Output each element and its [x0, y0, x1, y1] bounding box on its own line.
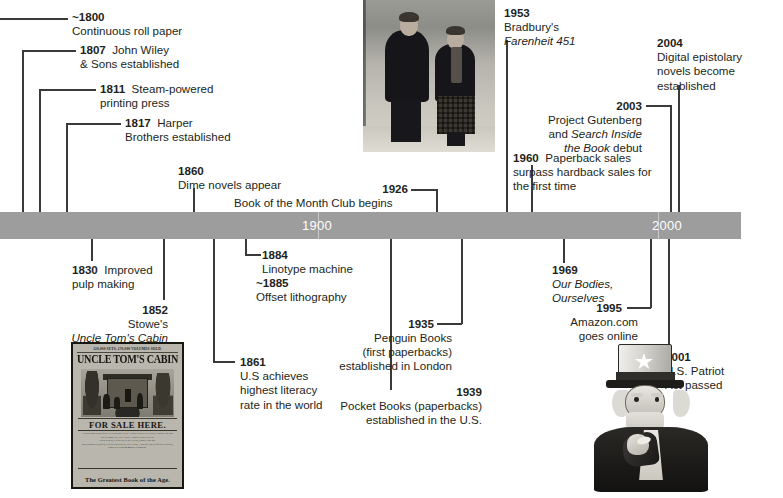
- connector-1811-horizontal: [39, 89, 96, 91]
- event-1939-line1: Pocket Books (paperbacks): [300, 399, 482, 413]
- timeline-infographic: 1900 2000 ~1800 Con: [0, 0, 783, 498]
- connector-1884-horizontal: [245, 254, 261, 256]
- event-2003: 2003: [520, 99, 642, 113]
- event-2003-line2-italic: Search Inside: [571, 127, 642, 140]
- event-1935: 1935: [330, 317, 434, 331]
- event-2004-line2: novels become: [657, 64, 742, 78]
- event-1939: 1939 Pocket Books (paperbacks) establish…: [300, 385, 482, 428]
- event-1830-year: 1830: [72, 263, 98, 276]
- event-2003-line3-italic: the Book: [564, 141, 610, 154]
- poster-figure-2: [114, 397, 120, 409]
- event-1884-year: 1884: [262, 248, 288, 261]
- event-1807-year: 1807: [80, 43, 106, 56]
- photo-figure-right-hair: [446, 26, 465, 35]
- event-1800: ~1800 Continuous roll paper: [72, 10, 182, 38]
- photo-figure-left-hair: [399, 12, 419, 22]
- uncle-sam-eye-right: [655, 397, 660, 401]
- event-2003-year: 2003: [616, 99, 642, 112]
- event-1995-text: Amazon.com goes online: [520, 315, 638, 343]
- event-1800-line1: Continuous roll paper: [72, 24, 182, 38]
- event-1953-year: 1953: [504, 6, 530, 19]
- poster-tree-left: [83, 371, 102, 415]
- event-1807-line2: & Sons established: [80, 57, 179, 71]
- event-2004: 2004 Digital epistolary novels become es…: [657, 36, 742, 93]
- event-1885-line1: Offset lithography: [256, 290, 347, 304]
- event-2004-line3: established: [657, 79, 742, 93]
- connector-1807-vertical: [22, 50, 24, 212]
- photo-figure-right-legs: [447, 132, 465, 146]
- event-2003-line3-suffix: debut: [610, 141, 642, 154]
- timeline-marker-2000: 2000: [652, 218, 682, 233]
- poster-body-line5: PRICES FROM $2.50 TO $5.00.: [78, 446, 177, 450]
- poster-cabin-door: [125, 389, 130, 402]
- event-1995: 1995: [530, 301, 622, 315]
- event-1953-line1: Bradbury's: [504, 20, 576, 34]
- poster-bottom-line: The Greatest Book of the Age.: [75, 476, 180, 483]
- event-1995-line2: goes online: [520, 329, 638, 343]
- event-1960-line2: surpass hardback sales for: [513, 165, 652, 179]
- event-1935-year: 1935: [408, 317, 434, 330]
- event-2003-line1: Project Gutenberg: [502, 113, 642, 127]
- event-1811-year: 1811: [100, 82, 125, 95]
- poster-tree-right: [153, 373, 173, 415]
- connector-1969-vertical: [563, 239, 565, 263]
- uncle-sam-eye-left: [634, 397, 639, 401]
- event-1926-line1: Book of the Month Club begins: [234, 196, 393, 210]
- event-1935-line2: (first paperbacks): [318, 345, 452, 359]
- uncle-sam-hair-right: [673, 390, 690, 417]
- connector-1861-horizontal: [213, 361, 235, 363]
- photo-figure-right-scarf: [451, 47, 462, 83]
- event-1960-line3: the first time: [513, 179, 652, 193]
- event-1995-line1: Amazon.com: [520, 315, 638, 329]
- poster-rule-top: [78, 418, 177, 419]
- event-2003-text: Project Gutenberg and Search Inside the …: [502, 113, 642, 156]
- event-1817-line2: Brothers established: [125, 130, 231, 144]
- photo-ground: [363, 126, 495, 152]
- connector-1935-horizontal: [437, 323, 462, 325]
- event-1817-line1: Harper: [157, 116, 192, 129]
- event-1830-line2: pulp making: [72, 277, 153, 291]
- event-1884-line1: Linotype machine: [262, 262, 353, 276]
- connector-1800-horizontal: [0, 18, 68, 20]
- event-2003-line2-prefix: and: [549, 127, 572, 140]
- connector-1884-vertical: [245, 239, 247, 255]
- two-young-people-winter-photograph: [363, 0, 495, 152]
- event-1885: ~1885 Offset lithography: [256, 276, 347, 304]
- uncle-toms-cabin-broadside-poster: 120,000 SETS, 270,000 VOLUMES SOLD. UNCL…: [71, 342, 184, 489]
- event-1926-text: Book of the Month Club begins: [234, 196, 393, 210]
- photo-figure-left-body: [385, 30, 429, 102]
- connector-1852-vertical: [163, 239, 165, 300]
- event-2004-year: 2004: [657, 36, 683, 49]
- event-1969: 1969 Our Bodies, Ourselves: [552, 263, 613, 306]
- connector-1926-horizontal: [411, 189, 437, 191]
- event-1811: 1811 Steam-powered printing press: [100, 82, 213, 110]
- connector-1995-vertical: [650, 239, 652, 308]
- poster-for-sale-line: FOR SALE HERE.: [75, 420, 180, 430]
- event-1935-line1: Penguin Books: [318, 331, 452, 345]
- poster-body-text: A SUPERB EDITION. ILLUSTRATED. TWO VOLS.…: [78, 432, 177, 450]
- connector-1811-vertical: [39, 89, 41, 212]
- event-1861-line1: U.S achieves: [240, 369, 323, 383]
- connector-2003-vertical: [670, 105, 672, 212]
- event-1926: 1926: [228, 182, 408, 196]
- event-1995-year: 1995: [596, 301, 622, 314]
- connector-1807-horizontal: [22, 50, 76, 52]
- connector-1926-vertical: [436, 189, 438, 212]
- poster-figure-1: [103, 394, 110, 409]
- poster-woodcut-illustration: [81, 369, 174, 417]
- photo-figure-left-legs: [391, 100, 421, 142]
- poster-top-line: 120,000 SETS, 270,000 VOLUMES SOLD.: [77, 347, 178, 353]
- event-1852-year: 1852: [142, 303, 168, 316]
- event-1811-line1: Steam-powered: [132, 82, 214, 95]
- event-1817-year: 1817: [125, 116, 151, 129]
- connector-1935-vertical: [461, 239, 463, 324]
- event-1939-line2: established in the U.S.: [300, 413, 482, 427]
- event-1852-line1: Stowe's: [33, 317, 168, 331]
- event-1926-year: 1926: [382, 182, 408, 195]
- poster-figure-3: [137, 393, 144, 409]
- connector-2001-vertical: [668, 239, 670, 344]
- event-1969-year: 1969: [552, 263, 578, 276]
- event-1935-line3: established in London: [318, 359, 452, 373]
- event-1807: 1807 John Wiley & Sons established: [80, 43, 179, 71]
- event-1852: 1852 Stowe's Uncle Tom's Cabin: [33, 303, 168, 346]
